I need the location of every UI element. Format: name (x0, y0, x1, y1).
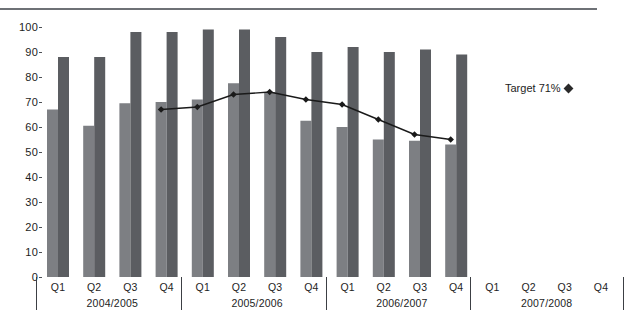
x-axis-quarter-label: Q4 (150, 281, 184, 293)
bar (264, 92, 275, 277)
x-axis-quarter-label: Q1 (475, 281, 509, 293)
chart-legend: Target 71% (505, 82, 572, 94)
bar (445, 145, 456, 278)
legend-label-target: Target 71% (505, 82, 561, 94)
x-axis-quarter-label: Q2 (512, 281, 546, 293)
bar (456, 55, 467, 278)
y-axis-tick-mark (39, 202, 42, 203)
x-axis-quarter-label: Q1 (186, 281, 220, 293)
bar (203, 30, 214, 278)
bar (94, 57, 105, 277)
x-axis-quarter-label: Q3 (403, 281, 437, 293)
y-axis-tick-label: 60 (14, 122, 38, 133)
x-axis-quarter-label: Q1 (41, 281, 75, 293)
y-axis-tick-label: 70 (14, 97, 38, 108)
bar (228, 83, 239, 277)
y-axis-tick-mark (39, 102, 42, 103)
y-axis-tick-mark (39, 227, 42, 228)
bar (58, 57, 69, 277)
x-axis-group-separator (36, 277, 37, 310)
bar (167, 32, 178, 277)
bar (409, 141, 420, 277)
x-axis-group-separator (181, 277, 182, 310)
bar (130, 32, 141, 277)
y-axis-tick-label: 0 (14, 272, 38, 283)
y-axis-tick-label: 40 (14, 172, 38, 183)
y-axis: 0102030405060708090100 (10, 0, 38, 327)
y-axis-tick-mark (39, 177, 42, 178)
y-axis-tick-label: 50 (14, 147, 38, 158)
y-axis-tick-mark (39, 277, 42, 278)
y-axis-tick-mark (39, 77, 42, 78)
bar (47, 110, 58, 278)
x-axis-year-label: 2007/2008 (474, 297, 619, 309)
y-axis-tick-label: 10 (14, 247, 38, 258)
bar (239, 30, 250, 278)
y-axis-tick-mark (39, 152, 42, 153)
y-axis-tick-label: 20 (14, 222, 38, 233)
x-axis-quarter-label: Q1 (331, 281, 365, 293)
bar (156, 102, 167, 277)
diamond-marker-icon (303, 96, 310, 103)
bar (384, 52, 395, 277)
y-axis-tick-mark (39, 252, 42, 253)
diamond-marker-icon (375, 116, 382, 123)
x-axis-quarter-label: Q3 (113, 281, 147, 293)
bar (311, 52, 322, 277)
x-axis-year-label: 2005/2006 (185, 297, 330, 309)
y-axis-tick-mark (39, 127, 42, 128)
x-axis-quarter-label: Q3 (258, 281, 292, 293)
bar (337, 127, 348, 277)
x-axis-group-separator (326, 277, 327, 310)
bar (300, 121, 311, 277)
diamond-marker-icon (339, 101, 346, 108)
x-axis-year-label: 2004/2005 (40, 297, 185, 309)
y-axis-tick-label: 80 (14, 72, 38, 83)
diamond-marker-icon (411, 131, 418, 138)
y-axis-tick-label: 90 (14, 47, 38, 58)
x-axis-quarter-label: Q2 (367, 281, 401, 293)
y-axis-tick-mark (39, 27, 42, 28)
x-axis-quarter-label: Q4 (439, 281, 473, 293)
x-axis-group-separator (470, 277, 471, 310)
y-axis-tick-label: 100 (14, 22, 38, 33)
x-axis-quarter-label: Q4 (294, 281, 328, 293)
bar (348, 47, 359, 277)
bar (420, 50, 431, 278)
x-axis-quarter-label: Q2 (222, 281, 256, 293)
y-axis-tick-mark (39, 52, 42, 53)
bar (192, 100, 203, 278)
bar (119, 103, 130, 277)
bar (275, 37, 286, 277)
bar (373, 140, 384, 278)
diamond-marker-icon (563, 83, 573, 93)
bar (83, 126, 94, 277)
x-axis-quarter-label: Q3 (548, 281, 582, 293)
x-axis-quarter-label: Q2 (77, 281, 111, 293)
x-axis-year-label: 2006/2007 (330, 297, 475, 309)
y-axis-tick-label: 30 (14, 197, 38, 208)
diamond-marker-icon (447, 136, 454, 143)
x-axis-quarter-label: Q4 (584, 281, 618, 293)
